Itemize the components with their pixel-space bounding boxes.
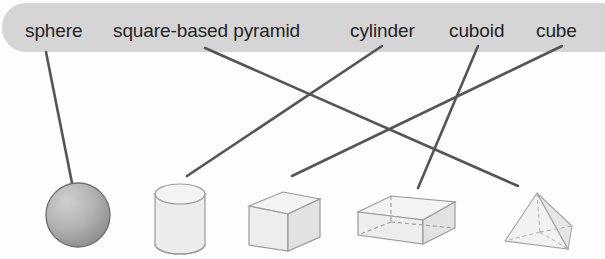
connector-cube[interactable] <box>292 46 562 176</box>
worksheet-canvas: sphere square-based pyramid cylinder cub… <box>0 0 605 259</box>
connector-cylinder[interactable] <box>187 46 382 176</box>
shape-cuboid[interactable] <box>358 196 455 244</box>
shape-sphere[interactable] <box>46 183 110 247</box>
connector-square-based-pyramid[interactable] <box>205 48 518 186</box>
connector-sphere[interactable] <box>46 52 72 183</box>
shape-square-based-pyramid[interactable] <box>505 193 572 249</box>
drawing-layer <box>0 0 605 259</box>
connector-cuboid[interactable] <box>418 46 478 188</box>
shape-cylinder[interactable] <box>155 184 205 254</box>
shape-cube[interactable] <box>249 192 320 251</box>
